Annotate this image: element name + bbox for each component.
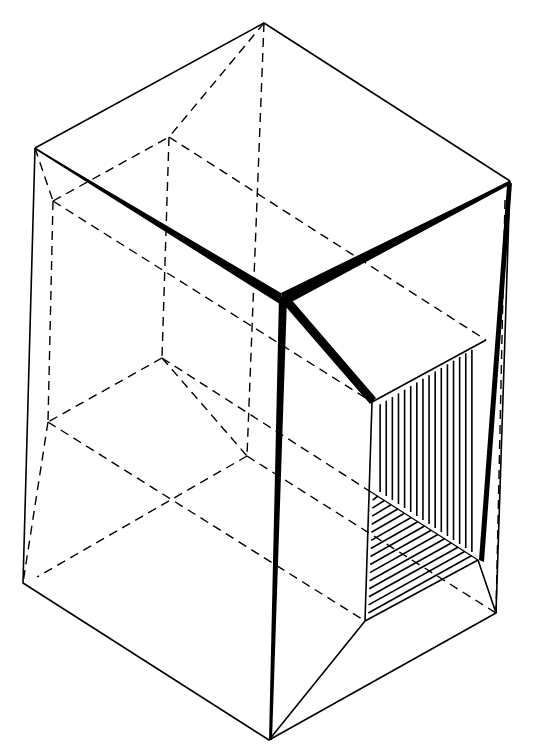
horizontal-hatching: [368, 496, 471, 613]
heavy-edges: [35, 148, 512, 740]
diagram-canvas: [0, 0, 536, 754]
crystal-diagram: [0, 0, 536, 754]
outer-edges: [23, 23, 510, 740]
vertical-hatching: [380, 350, 472, 552]
cutaway-box: [365, 340, 486, 621]
